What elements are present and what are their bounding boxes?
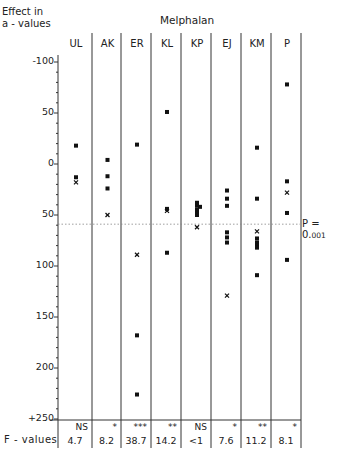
- square-marker: [225, 204, 229, 208]
- square-marker: [135, 333, 139, 337]
- series-ul: [74, 144, 78, 185]
- square-marker: [135, 393, 139, 397]
- f-value: 7.6: [211, 435, 241, 446]
- square-marker: [106, 174, 110, 178]
- significance-marker: *: [92, 422, 117, 432]
- f-value: <1: [181, 435, 211, 446]
- square-marker: [255, 246, 259, 250]
- significance-marker: NS: [58, 422, 88, 432]
- series-km: [255, 146, 259, 278]
- square-marker: [195, 213, 199, 217]
- square-marker: [285, 258, 289, 262]
- p-value-annotation: P = 0.001: [302, 218, 345, 240]
- square-marker: [255, 146, 259, 150]
- square-marker: [135, 143, 139, 147]
- series-er: [135, 143, 139, 397]
- square-marker: [74, 175, 78, 179]
- f-value: 14.2: [151, 435, 181, 446]
- square-marker: [255, 273, 259, 277]
- plot-area: [0, 0, 345, 456]
- square-marker: [255, 197, 259, 201]
- significance-marker: ***: [121, 422, 147, 432]
- f-value: 11.2: [241, 435, 271, 446]
- significance-marker: *: [271, 422, 297, 432]
- f-values-label: F - values: [4, 434, 57, 445]
- series-kp: [195, 201, 202, 229]
- f-value: 8.2: [92, 435, 121, 446]
- series-kl: [165, 110, 169, 255]
- significance-marker: **: [151, 422, 177, 432]
- square-marker: [165, 110, 169, 114]
- series-ej: [225, 189, 229, 298]
- series-ak: [106, 158, 110, 217]
- significance-marker: NS: [181, 422, 207, 432]
- square-marker: [106, 158, 110, 162]
- square-marker: [285, 211, 289, 215]
- square-marker: [225, 241, 229, 245]
- square-marker: [74, 144, 78, 148]
- square-marker: [225, 197, 229, 201]
- significance-marker: *: [211, 422, 237, 432]
- square-marker: [285, 179, 289, 183]
- square-marker: [225, 230, 229, 234]
- f-value: 38.7: [121, 435, 151, 446]
- square-marker: [225, 235, 229, 239]
- square-marker: [106, 186, 110, 190]
- f-value: 4.7: [58, 435, 92, 446]
- square-marker: [285, 82, 289, 86]
- f-value: 8.1: [271, 435, 301, 446]
- square-marker: [255, 236, 259, 240]
- square-marker: [225, 189, 229, 193]
- square-marker: [165, 251, 169, 255]
- significance-marker: **: [241, 422, 267, 432]
- series-p: [285, 82, 289, 261]
